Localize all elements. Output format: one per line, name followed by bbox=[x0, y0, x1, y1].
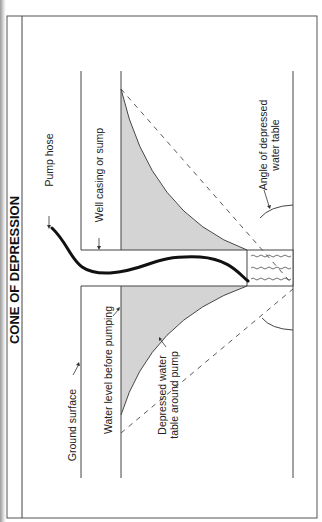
angle-arrow bbox=[264, 190, 269, 206]
label-water-level: Water level before pumping bbox=[102, 306, 114, 434]
label-depressed-line2: table around pump bbox=[168, 351, 180, 439]
label-angle-line1: Angle of depressed bbox=[257, 100, 269, 191]
label-depressed-line1: Depressed water bbox=[156, 355, 168, 435]
angle-arc-lower bbox=[262, 318, 293, 330]
arrowhead-icon bbox=[76, 362, 80, 366]
cone-lower-fill bbox=[121, 286, 247, 415]
cone-upper-fill bbox=[121, 89, 247, 250]
cone-of-depression-diagram: CONE OF DEPRESSION Ground surface Water … bbox=[0, 0, 322, 522]
arrowhead-icon bbox=[267, 205, 271, 209]
diagram-title: CONE OF DEPRESSION bbox=[7, 196, 22, 344]
label-angle-line2: water table bbox=[269, 119, 281, 172]
arrowhead-icon bbox=[97, 246, 101, 250]
arrowhead-icon bbox=[47, 225, 51, 229]
angle-arc-upper bbox=[260, 205, 293, 218]
ground-surface-arrow bbox=[73, 364, 79, 375]
label-pump-hose: Pump hose bbox=[43, 133, 55, 186]
label-ground-surface: Ground surface bbox=[66, 389, 78, 462]
label-well-casing: Well casing or sump bbox=[93, 128, 105, 223]
